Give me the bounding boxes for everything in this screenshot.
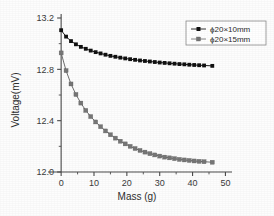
data-point-marker — [173, 157, 177, 161]
data-point-marker — [163, 61, 167, 65]
x-axis-title: Mass (g) — [118, 191, 157, 202]
data-point-marker — [148, 60, 152, 64]
data-point-marker — [210, 160, 214, 164]
data-point-marker — [74, 92, 78, 96]
data-point-marker — [99, 52, 103, 56]
legend-label: ϕ20×10mm — [210, 25, 251, 34]
x-tick-label: 40 — [188, 178, 198, 188]
data-point-marker — [177, 157, 181, 161]
legend-marker-sample — [197, 27, 201, 31]
legend-label: ϕ20×15mm — [210, 35, 251, 44]
data-point-marker — [178, 62, 182, 66]
chart-figure: 12.012.412.813.201020304050 ϕ20×10mmϕ20×… — [0, 0, 274, 216]
data-point-marker — [182, 62, 186, 66]
data-point-marker — [138, 59, 142, 63]
x-tick-label: 0 — [59, 178, 64, 188]
voltage-vs-mass-chart: 12.012.412.813.201020304050 ϕ20×10mmϕ20×… — [0, 0, 274, 216]
data-point-marker — [128, 57, 132, 61]
data-point-marker — [128, 144, 132, 148]
data-point-marker — [138, 148, 142, 152]
x-tick-label: 30 — [155, 178, 165, 188]
data-point-marker — [59, 28, 63, 32]
data-point-marker — [74, 42, 78, 46]
data-point-marker — [94, 120, 98, 124]
data-point-marker — [182, 158, 186, 162]
data-point-marker — [210, 64, 214, 68]
data-point-marker — [113, 55, 117, 59]
data-point-marker — [158, 154, 162, 158]
data-point-marker — [202, 64, 206, 68]
data-point-marker — [168, 156, 172, 160]
chart-legend: ϕ20×10mmϕ20×15mm — [186, 21, 266, 45]
data-point-marker — [79, 101, 83, 105]
data-point-marker — [133, 147, 137, 151]
data-point-marker — [163, 155, 167, 159]
legend-marker-sample — [197, 37, 201, 41]
x-tick-label: 50 — [220, 178, 230, 188]
data-point-marker — [64, 35, 68, 39]
data-point-marker — [89, 115, 93, 119]
y-tick-label: 12.4 — [37, 116, 55, 126]
data-point-marker — [79, 45, 83, 49]
y-tick-label: 12.8 — [37, 65, 55, 75]
data-point-marker — [143, 150, 147, 154]
data-point-marker — [64, 69, 68, 73]
data-point-marker — [104, 53, 108, 57]
y-tick-label: 13.2 — [37, 13, 55, 23]
data-point-marker — [69, 39, 73, 43]
data-point-marker — [123, 57, 127, 61]
data-point-marker — [118, 139, 122, 143]
data-point-marker — [118, 56, 122, 60]
data-point-marker — [168, 61, 172, 65]
data-point-marker — [89, 49, 93, 53]
data-point-marker — [202, 160, 206, 164]
data-point-marker — [143, 59, 147, 63]
data-point-marker — [187, 158, 191, 162]
data-point-marker — [148, 152, 152, 156]
y-tick-label: 12.0 — [37, 167, 55, 177]
data-point-marker — [84, 108, 88, 112]
y-axis-title: Voltage(mV) — [10, 72, 21, 127]
x-tick-label: 10 — [89, 178, 99, 188]
data-point-marker — [109, 54, 113, 58]
data-point-marker — [153, 60, 157, 64]
data-point-marker — [187, 63, 191, 67]
data-point-marker — [197, 63, 201, 67]
data-point-marker — [84, 47, 88, 51]
data-point-marker — [192, 159, 196, 163]
x-tick-label: 20 — [122, 178, 132, 188]
data-point-marker — [104, 129, 108, 133]
data-point-marker — [108, 133, 112, 137]
data-point-marker — [69, 82, 73, 86]
data-point-marker — [158, 61, 162, 65]
data-point-marker — [133, 58, 137, 62]
data-point-marker — [113, 136, 117, 140]
data-point-marker — [59, 51, 63, 55]
data-point-marker — [153, 153, 157, 157]
data-point-marker — [94, 50, 98, 54]
data-point-marker — [197, 159, 201, 163]
data-point-marker — [173, 62, 177, 66]
data-point-marker — [123, 142, 127, 146]
data-point-marker — [99, 125, 103, 129]
data-point-marker — [192, 63, 196, 67]
